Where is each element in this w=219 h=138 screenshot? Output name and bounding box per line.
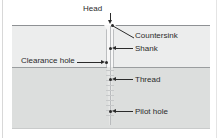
arrowhead-shank-icon: [112, 46, 116, 50]
label-clearance-hole: Clearance hole: [21, 56, 75, 65]
arrowhead-thread-icon: [112, 77, 116, 81]
label-thread: Thread: [135, 75, 160, 84]
leader-thread: [115, 79, 133, 80]
label-head: Head: [83, 4, 102, 13]
leader-clearance-hole: [77, 62, 102, 63]
frame-border-left: [2, 0, 3, 138]
arrowhead-pilot-hole-icon: [112, 109, 116, 113]
leader-dot-clearance-hole: [105, 61, 108, 64]
leader-pilot-hole: [115, 111, 133, 112]
screw-joint-diagram: Head Countersink Shank Clearance hole Th…: [0, 0, 219, 138]
leader-shank: [115, 48, 133, 49]
leader-countersink: [112, 25, 134, 37]
label-countersink: Countersink: [135, 31, 178, 40]
frame-border-right: [216, 0, 217, 138]
label-shank: Shank: [135, 44, 158, 53]
leader-dot-countersink: [111, 24, 114, 27]
label-pilot-hole: Pilot hole: [135, 107, 168, 116]
